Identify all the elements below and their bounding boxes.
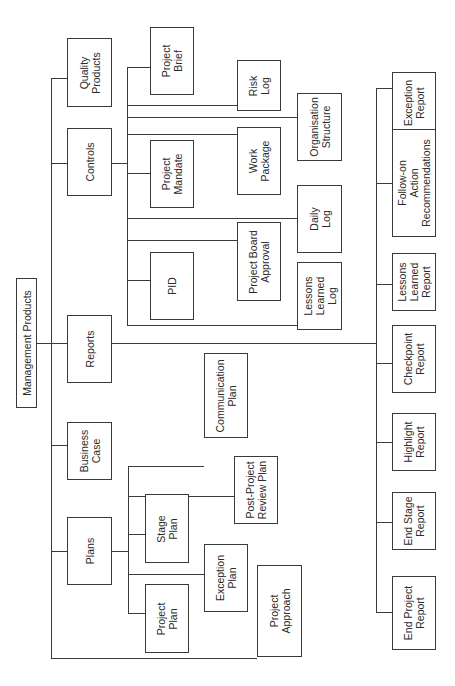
connector [51, 551, 67, 552]
node-label: Quality Products [78, 52, 102, 93]
node-label: Daily Log [308, 207, 332, 230]
node-label: Checkpoint Report [402, 333, 426, 386]
connector [112, 343, 376, 344]
connector [376, 183, 392, 184]
node-organisation-structure: Organisation Structure [297, 93, 342, 161]
connector [376, 442, 392, 443]
connector [51, 445, 67, 446]
connector [127, 134, 237, 135]
node-label: Management Products [21, 290, 33, 396]
node-label: PID [166, 277, 178, 295]
connector [127, 240, 237, 241]
node-quality-products: Quality Products [67, 38, 112, 107]
connector [376, 88, 392, 89]
node-label: Project Approach [268, 589, 292, 634]
node-post-project-review-plan: Post-Project Review Plan [234, 456, 278, 524]
node-follow-on-action-recommendations: Follow-on Action Recommendations [392, 129, 436, 237]
node-label: Organisation Structure [308, 97, 332, 157]
node-stage-plan: Stage Plan [145, 494, 189, 563]
connector [128, 466, 204, 467]
node-end-project-report: End Project Report [392, 576, 436, 650]
node-label: Risk Log [247, 75, 271, 95]
node-checkpoint-report: Checkpoint Report [392, 325, 436, 393]
plans-spine [128, 466, 129, 614]
node-reports: Reports [67, 315, 112, 383]
connector [127, 67, 150, 68]
node-exception-plan: Exception Plan [204, 544, 248, 612]
node-label: Lessons Learned Report [396, 262, 432, 301]
connector [376, 612, 392, 613]
node-label: Plans [84, 538, 96, 564]
node-controls: Controls [67, 128, 112, 196]
node-label: Project Plan [155, 602, 179, 635]
node-end-stage-report: End Stage Report [392, 492, 436, 550]
root-node-management-products: Management Products [16, 278, 37, 408]
node-business-case: Business Case [67, 422, 112, 480]
node-highlight-report: Highlight Report [392, 413, 436, 471]
node-label: Project Mandate [160, 154, 184, 195]
connector [127, 105, 237, 106]
node-label: Lessons Learned Log [302, 276, 338, 315]
node-label: Business Case [78, 430, 102, 473]
node-project-plan: Project Plan [145, 584, 189, 653]
connector [127, 117, 297, 118]
connector [376, 522, 392, 523]
node-project-approach: Project Approach [257, 565, 302, 657]
connector [51, 78, 67, 79]
connector [127, 280, 150, 281]
node-label: End Stage Report [402, 496, 426, 545]
node-label: Reports [84, 331, 96, 368]
node-project-brief: Project Brief [150, 27, 194, 95]
connector [37, 343, 51, 344]
connector [128, 534, 145, 535]
connector [376, 363, 392, 364]
connector [376, 284, 392, 285]
node-label: Communication Plan [214, 359, 238, 432]
node-label: Project Brief [160, 45, 184, 78]
connector [127, 218, 297, 219]
connector [127, 173, 150, 174]
node-label: Controls [84, 142, 96, 181]
main-spine [51, 78, 52, 658]
node-label: Stage Plan [155, 515, 179, 542]
node-label: Post-Project Review Plan [244, 461, 268, 519]
node-plans: Plans [67, 517, 112, 585]
connector [112, 551, 128, 552]
node-label: Project Board Approval [247, 230, 271, 294]
connector [51, 658, 257, 659]
node-label: End Project Report [402, 586, 426, 640]
node-lessons-learned-report: Lessons Learned Report [392, 253, 436, 311]
node-risk-log: Risk Log [237, 60, 281, 111]
node-project-mandate: Project Mandate [150, 140, 194, 208]
connector [51, 163, 67, 164]
connector [51, 343, 67, 344]
node-label: Follow-on Action Recommendations [396, 139, 432, 227]
connector [127, 325, 297, 326]
connector [112, 163, 127, 164]
node-label: Work Package [247, 141, 271, 182]
node-label: Highlight Report [402, 422, 426, 463]
node-exception-report: Exception Report [392, 72, 436, 133]
node-work-package: Work Package [237, 127, 281, 195]
connector [128, 613, 145, 614]
node-lessons-learned-log: Lessons Learned Log [297, 262, 342, 330]
reports-spine [376, 88, 377, 612]
node-pid: PID [150, 252, 194, 320]
node-project-board-approval: Project Board Approval [237, 222, 281, 301]
node-daily-log: Daily Log [297, 185, 342, 253]
node-label: Exception Plan [214, 555, 238, 601]
connector [128, 574, 204, 575]
node-label: Exception Report [402, 79, 426, 125]
node-communication-plan: Communication Plan [204, 353, 248, 438]
